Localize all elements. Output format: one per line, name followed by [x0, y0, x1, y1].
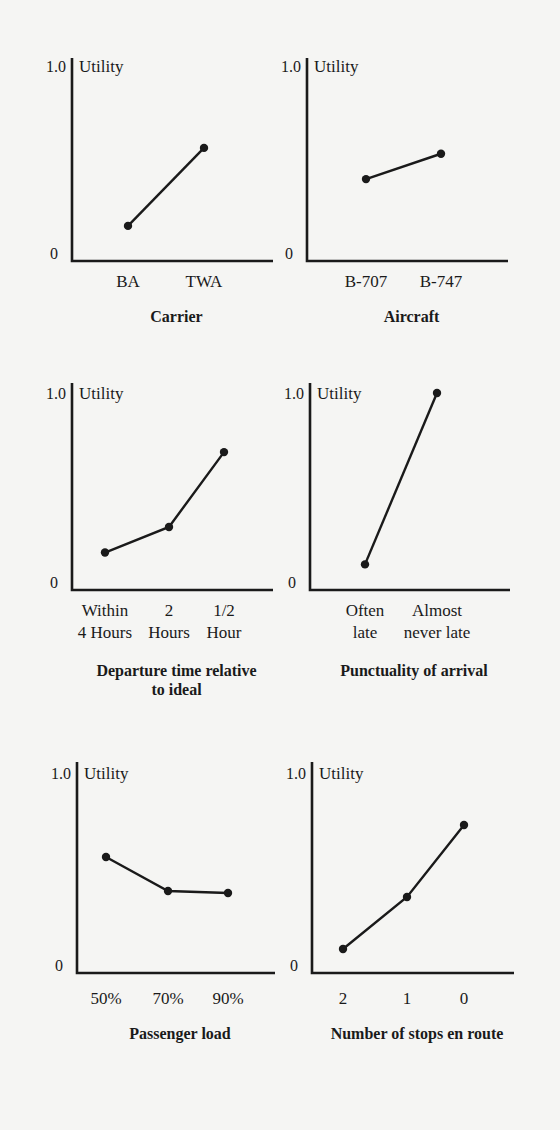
- data-point: [361, 560, 369, 568]
- chart-title: Punctuality of arrival: [340, 662, 488, 680]
- chart-punctuality-of-arrival: 1.00UtilityOftenlateAlmostnever latePunc…: [284, 383, 510, 680]
- y-axis-label: Utility: [314, 57, 359, 76]
- y-axis-label: Utility: [319, 764, 364, 783]
- data-point: [224, 889, 232, 897]
- data-point: [165, 523, 173, 531]
- x-tick-label: Hours: [148, 623, 190, 642]
- chart-title: Number of stops en route: [331, 1025, 504, 1043]
- chart-number-of-stops-en-route: 1.00Utility210Number of stops en route: [286, 762, 514, 1043]
- axes: [72, 383, 273, 590]
- x-tick-label: BA: [116, 272, 140, 291]
- x-tick-label: 1: [403, 989, 412, 1008]
- x-tick-label: Within: [82, 601, 129, 620]
- x-tick-label: 4 Hours: [78, 623, 132, 642]
- x-tick-label: 1/2: [213, 601, 235, 620]
- x-tick-label: 2: [165, 601, 174, 620]
- x-tick-label: Often: [346, 601, 385, 620]
- charts-canvas: 1.00UtilityBATWACarrier1.00UtilityB-707B…: [0, 0, 560, 1130]
- chart-title: Passenger load: [129, 1025, 231, 1043]
- y-tick-zero: 0: [285, 245, 293, 262]
- y-axis-label: Utility: [317, 384, 362, 403]
- y-tick-max: 1.0: [286, 765, 306, 782]
- chart-title: to ideal: [151, 681, 202, 698]
- y-axis-label: Utility: [79, 384, 124, 403]
- data-point: [460, 821, 468, 829]
- y-tick-zero: 0: [50, 574, 58, 591]
- chart-passenger-load: 1.00Utility50%70%90%Passenger load: [51, 762, 275, 1043]
- y-tick-max: 1.0: [281, 58, 301, 75]
- data-point: [124, 222, 132, 230]
- utility-line: [105, 452, 224, 552]
- utility-line: [343, 825, 464, 949]
- data-point: [164, 887, 172, 895]
- data-point: [362, 175, 370, 183]
- y-tick-max: 1.0: [284, 385, 304, 402]
- axes: [310, 383, 510, 590]
- axes: [312, 762, 514, 973]
- chart-title: Carrier: [150, 308, 202, 325]
- x-tick-label: B-707: [345, 272, 388, 291]
- chart-title: Departure time relative: [96, 662, 256, 680]
- axes: [77, 762, 275, 973]
- y-tick-zero: 0: [55, 957, 63, 974]
- data-point: [200, 144, 208, 152]
- y-tick-max: 1.0: [46, 385, 66, 402]
- chart-title: Aircraft: [384, 308, 440, 325]
- x-tick-label: B-747: [420, 272, 463, 291]
- utility-line: [128, 148, 204, 226]
- chart-aircraft: 1.00UtilityB-707B-747Aircraft: [281, 57, 508, 325]
- chart-carrier: 1.00UtilityBATWACarrier: [46, 57, 273, 325]
- x-tick-label: 0: [460, 989, 469, 1008]
- x-tick-label: late: [353, 623, 378, 642]
- y-tick-max: 1.0: [46, 58, 66, 75]
- data-point: [101, 548, 109, 556]
- utility-line: [365, 393, 437, 564]
- y-tick-zero: 0: [50, 245, 58, 262]
- chart-departure-time-relative-to-ideal: 1.00UtilityWithin4 Hours2Hours1/2HourDep…: [46, 383, 273, 698]
- y-tick-max: 1.0: [51, 765, 71, 782]
- x-tick-label: Hour: [207, 623, 242, 642]
- x-tick-label: TWA: [186, 272, 224, 291]
- y-axis-label: Utility: [84, 764, 129, 783]
- x-tick-label: 50%: [90, 989, 121, 1008]
- axes: [307, 58, 508, 261]
- data-point: [433, 389, 441, 397]
- x-tick-label: 90%: [212, 989, 243, 1008]
- utility-line: [366, 154, 441, 179]
- x-tick-label: 70%: [152, 989, 183, 1008]
- data-point: [220, 448, 228, 456]
- y-tick-zero: 0: [290, 957, 298, 974]
- data-point: [403, 893, 411, 901]
- data-point: [102, 853, 110, 861]
- axes: [72, 58, 273, 261]
- data-point: [437, 150, 445, 158]
- x-tick-label: 2: [339, 989, 348, 1008]
- data-point: [339, 945, 347, 953]
- y-axis-label: Utility: [79, 57, 124, 76]
- utility-charts-figure: 1.00UtilityBATWACarrier1.00UtilityB-707B…: [0, 0, 560, 1130]
- x-tick-label: Almost: [412, 601, 462, 620]
- y-tick-zero: 0: [288, 574, 296, 591]
- x-tick-label: never late: [404, 623, 471, 642]
